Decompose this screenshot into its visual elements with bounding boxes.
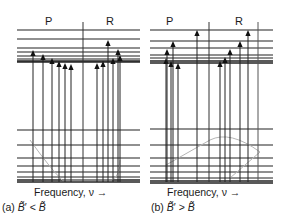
panel-a-caption-text: (a) B̃′ < B̃ (2, 201, 46, 213)
arrow-head-icon (164, 49, 169, 55)
arrow-head-icon (217, 61, 222, 67)
arrow-head-icon (68, 64, 73, 70)
panel-b-caption: (b) B̃′ > B̃ (151, 201, 195, 213)
arrow-head-icon (30, 50, 35, 56)
arrow-head-icon (62, 63, 67, 69)
arrow-head-icon (194, 30, 199, 36)
panel-b-frequency-axis-label: Frequency, ν → (167, 186, 240, 198)
arrow-head-icon (170, 41, 175, 47)
panel-a-p-branch-label: P (45, 15, 52, 27)
panel-a-diagram (17, 22, 140, 182)
panel-b-caption-text: (b) B̃′ > B̃ (151, 201, 195, 213)
arrow-head-icon (94, 63, 99, 69)
panel-a-r-branch-label: R (106, 15, 114, 27)
arrow-head-icon (105, 40, 110, 46)
panel-a-frequency-axis-label: Frequency, ν → (34, 186, 107, 198)
panel-b-diagram (150, 22, 273, 183)
arrow-head-icon (245, 30, 250, 36)
arrow-head-icon (227, 49, 232, 55)
arrow-head-icon (175, 63, 180, 69)
arrow-head-icon (40, 54, 45, 60)
panel-b-p-branch-label: P (166, 15, 173, 27)
panel-b-r-branch-label: R (235, 15, 243, 27)
panel-a-caption: (a) B̃′ < B̃ (2, 201, 46, 213)
arrow-head-icon (237, 41, 242, 47)
